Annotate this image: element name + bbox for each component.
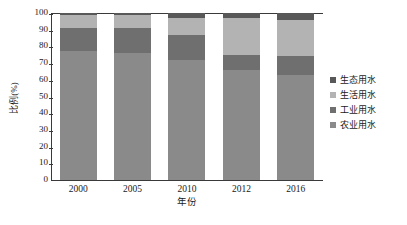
x-axis-line <box>51 180 323 181</box>
y-tick-label: 20 <box>26 141 48 150</box>
legend-swatch-icon <box>330 122 336 128</box>
bar-segment[interactable] <box>277 13 314 20</box>
bar-group <box>269 13 323 180</box>
stacked-bar[interactable] <box>223 13 260 180</box>
bar-segment[interactable] <box>60 28 97 51</box>
legend-item[interactable]: 农业用水 <box>330 117 405 132</box>
x-tick-label: 2000 <box>69 183 88 195</box>
x-tick-label: 2010 <box>178 183 197 195</box>
stacked-bar-chart-figure: 比例(%) 0102030405060708090100 20002005201… <box>0 0 407 225</box>
bar-segment[interactable] <box>277 75 314 180</box>
bar-group <box>160 13 214 180</box>
bar-segment[interactable] <box>60 15 97 28</box>
bar-segment[interactable] <box>277 56 314 74</box>
legend-label: 生态用水 <box>340 75 376 85</box>
y-tick-label: 50 <box>26 91 48 100</box>
bar-segment[interactable] <box>168 13 205 18</box>
legend-label: 工业用水 <box>340 105 376 115</box>
x-axis-tick-labels: 20002005201020122016 <box>51 183 323 197</box>
stacked-bar[interactable] <box>60 13 97 180</box>
bar-segment[interactable] <box>223 13 260 18</box>
y-tick-label: 60 <box>26 74 48 83</box>
legend-swatch-icon <box>330 77 336 83</box>
y-tick-label: 70 <box>26 58 48 67</box>
bar-segment[interactable] <box>223 18 260 55</box>
bar-segment[interactable] <box>223 55 260 70</box>
bar-segment[interactable] <box>168 35 205 60</box>
bar-group <box>214 13 268 180</box>
legend-item[interactable]: 生活用水 <box>330 87 405 102</box>
legend-swatch-icon <box>330 92 336 98</box>
y-tick-label: 10 <box>26 158 48 167</box>
x-tick-label: 2012 <box>232 183 251 195</box>
x-axis-title: 年份 <box>51 196 323 208</box>
y-tick-label: 80 <box>26 41 48 50</box>
legend-label: 农业用水 <box>340 120 376 130</box>
legend-item[interactable]: 工业用水 <box>330 102 405 117</box>
y-axis-tick-labels: 0102030405060708090100 <box>26 12 48 180</box>
bar-segment[interactable] <box>277 20 314 57</box>
y-tick-label: 0 <box>26 175 48 184</box>
stacked-bar[interactable] <box>168 13 205 180</box>
bar-series-group <box>51 13 323 180</box>
bar-segment[interactable] <box>114 53 151 180</box>
bar-segment[interactable] <box>60 13 97 15</box>
bar-segment[interactable] <box>114 13 151 15</box>
legend-label: 生活用水 <box>340 90 376 100</box>
x-tick-label: 2005 <box>123 183 142 195</box>
y-tick-label: 30 <box>26 124 48 133</box>
y-tick-label: 90 <box>26 24 48 33</box>
stacked-bar[interactable] <box>114 13 151 180</box>
y-axis-title: 比例(%) <box>9 58 19 138</box>
bar-segment[interactable] <box>60 51 97 180</box>
y-tick-label: 100 <box>26 8 48 17</box>
bar-group <box>51 13 105 180</box>
chart-legend: 生态用水生活用水工业用水农业用水 <box>330 72 405 132</box>
y-tick-label: 40 <box>26 108 48 117</box>
bar-segment[interactable] <box>168 18 205 35</box>
bar-segment[interactable] <box>223 70 260 180</box>
legend-item[interactable]: 生态用水 <box>330 72 405 87</box>
bar-segment[interactable] <box>168 60 205 180</box>
legend-swatch-icon <box>330 107 336 113</box>
bar-segment[interactable] <box>114 28 151 53</box>
stacked-bar[interactable] <box>277 13 314 180</box>
bar-group <box>105 13 159 180</box>
bar-segment[interactable] <box>114 15 151 28</box>
x-tick-label: 2016 <box>286 183 305 195</box>
